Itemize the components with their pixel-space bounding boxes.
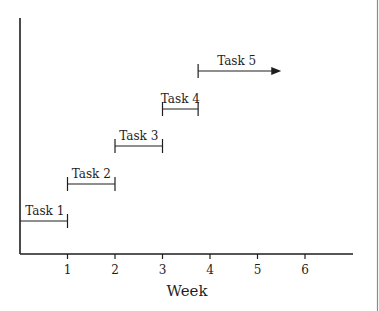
task-label: Task 2 bbox=[72, 167, 111, 181]
task-bar: Task 5 bbox=[198, 54, 281, 78]
task-label: Task 4 bbox=[161, 92, 200, 106]
task-bar: Task 2 bbox=[68, 167, 116, 191]
x-tick-label: 5 bbox=[254, 263, 262, 277]
task-bar: Task 4 bbox=[161, 92, 200, 116]
task-bars: Task 1Task 2Task 3Task 4Task 5 bbox=[20, 54, 281, 228]
arrow-head-icon bbox=[271, 67, 281, 75]
task-bar: Task 3 bbox=[115, 129, 163, 153]
x-tick-label: 3 bbox=[159, 263, 167, 277]
x-axis-ticks: 123456 bbox=[64, 254, 309, 277]
gantt-chart: 123456 Task 1Task 2Task 3Task 4Task 5 We… bbox=[0, 0, 379, 311]
task-bar: Task 1 bbox=[20, 204, 68, 228]
x-tick-label: 4 bbox=[206, 263, 214, 277]
axes bbox=[20, 18, 353, 254]
x-tick-label: 2 bbox=[111, 263, 119, 277]
task-label: Task 3 bbox=[119, 129, 158, 143]
task-label: Task 5 bbox=[217, 54, 256, 68]
x-tick-label: 6 bbox=[301, 263, 309, 277]
task-label: Task 1 bbox=[25, 204, 64, 218]
x-tick-label: 1 bbox=[64, 263, 72, 277]
x-axis-label: Week bbox=[166, 282, 208, 300]
